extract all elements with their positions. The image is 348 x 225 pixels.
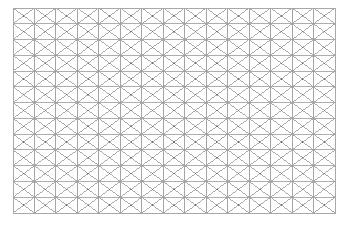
grid-node xyxy=(23,110,24,111)
grid-node xyxy=(281,47,282,48)
figure-background xyxy=(0,0,348,225)
grid-node xyxy=(23,126,24,127)
grid-node xyxy=(324,173,325,174)
grid-node xyxy=(302,173,303,174)
grid-node xyxy=(324,189,325,190)
grid-node xyxy=(45,173,46,174)
grid-node xyxy=(23,78,24,79)
grid-node xyxy=(45,126,46,127)
grid-node xyxy=(130,78,131,79)
grid-node xyxy=(130,47,131,48)
grid-node xyxy=(281,62,282,63)
grid-node xyxy=(130,94,131,95)
grid-node xyxy=(281,110,282,111)
grid-node xyxy=(238,110,239,111)
grid-node xyxy=(238,15,239,16)
grid-node xyxy=(173,62,174,63)
grid-node xyxy=(87,110,88,111)
grid-node xyxy=(130,141,131,142)
grid-node xyxy=(259,15,260,16)
grid-node xyxy=(173,15,174,16)
grid-node xyxy=(23,141,24,142)
grid-node xyxy=(281,204,282,205)
grid-node xyxy=(173,141,174,142)
grid-node xyxy=(195,78,196,79)
grid-node xyxy=(259,204,260,205)
grid-node xyxy=(281,173,282,174)
grid-node xyxy=(87,31,88,32)
grid-node xyxy=(87,94,88,95)
grid-node xyxy=(109,78,110,79)
grid-node xyxy=(324,78,325,79)
grid-node xyxy=(130,126,131,127)
grid-node xyxy=(130,173,131,174)
grid-node xyxy=(324,204,325,205)
grid-node xyxy=(173,47,174,48)
grid-node xyxy=(302,15,303,16)
grid-node xyxy=(45,47,46,48)
grid-node xyxy=(302,31,303,32)
grid-node xyxy=(195,31,196,32)
grid-node xyxy=(66,204,67,205)
grid-node xyxy=(216,126,217,127)
grid-node xyxy=(152,62,153,63)
grid-node xyxy=(130,157,131,158)
grid-node xyxy=(152,204,153,205)
grid-node xyxy=(45,62,46,63)
grid-node xyxy=(195,157,196,158)
grid-node xyxy=(324,141,325,142)
grid-node xyxy=(216,110,217,111)
grid-node xyxy=(23,173,24,174)
grid-node xyxy=(216,47,217,48)
grid-node xyxy=(216,189,217,190)
grid-node xyxy=(259,157,260,158)
grid-node xyxy=(66,94,67,95)
grid-node xyxy=(259,47,260,48)
grid-node xyxy=(173,78,174,79)
grid-node xyxy=(259,173,260,174)
grid-node xyxy=(238,31,239,32)
grid-node xyxy=(109,141,110,142)
grid-node xyxy=(109,47,110,48)
grid-node xyxy=(216,173,217,174)
grid-node xyxy=(109,204,110,205)
grid-node xyxy=(195,189,196,190)
grid-node xyxy=(324,126,325,127)
grid-node xyxy=(87,62,88,63)
grid-node xyxy=(302,204,303,205)
grid-node xyxy=(45,78,46,79)
grid-node xyxy=(130,15,131,16)
grid-node xyxy=(238,204,239,205)
grid-node xyxy=(45,189,46,190)
grid-node xyxy=(66,157,67,158)
grid-node xyxy=(45,204,46,205)
grid-node xyxy=(23,62,24,63)
grid-node xyxy=(109,31,110,32)
grid-node xyxy=(173,126,174,127)
grid-node xyxy=(87,189,88,190)
grid-node xyxy=(45,31,46,32)
grid-node xyxy=(173,189,174,190)
grid-node xyxy=(302,189,303,190)
grid-node xyxy=(173,173,174,174)
grid-node xyxy=(302,126,303,127)
grid-node xyxy=(259,141,260,142)
grid-node xyxy=(23,15,24,16)
grid-node xyxy=(216,157,217,158)
grid-node xyxy=(87,204,88,205)
grid-node xyxy=(23,189,24,190)
grid-node xyxy=(324,47,325,48)
grid-node xyxy=(281,15,282,16)
grid-node xyxy=(216,141,217,142)
grid-node xyxy=(195,47,196,48)
grid-node xyxy=(216,62,217,63)
grid-node xyxy=(109,94,110,95)
grid-node xyxy=(152,157,153,158)
grid-node xyxy=(195,173,196,174)
grid-node xyxy=(195,62,196,63)
grid-node xyxy=(216,31,217,32)
grid-node xyxy=(130,62,131,63)
grid-node xyxy=(45,94,46,95)
grid-node xyxy=(23,94,24,95)
grid-node xyxy=(152,173,153,174)
